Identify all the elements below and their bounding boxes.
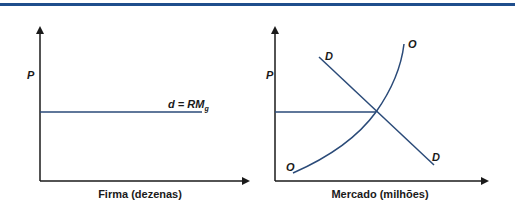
demand-label: d = RMg <box>168 98 209 113</box>
supply-label-top: O <box>408 38 417 50</box>
demand-label-bottom: D <box>432 151 440 163</box>
top-rule <box>0 3 515 6</box>
supply-curve <box>293 44 404 173</box>
y-axis-label: P <box>27 69 35 81</box>
left-panel-firm: P d = RMg Firma (dezenas) <box>27 30 246 200</box>
y-axis-label: P <box>266 69 274 81</box>
x-axis-label: Firma (dezenas) <box>98 188 182 200</box>
x-axis-label: Mercado (milhões) <box>331 188 429 200</box>
diagram-canvas: P d = RMg Firma (dezenas) P D D O O Merc… <box>0 0 523 211</box>
supply-label-bottom: O <box>286 161 295 173</box>
right-panel-market: P D D O O Mercado (milhões) <box>266 30 485 200</box>
demand-label-top: D <box>325 50 333 62</box>
